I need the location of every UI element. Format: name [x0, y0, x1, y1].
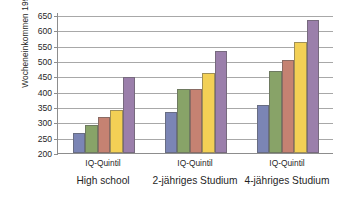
bar	[123, 77, 136, 153]
y-tick-label: 350	[38, 104, 52, 113]
y-tick-mark	[54, 154, 58, 155]
bar-group	[73, 13, 136, 153]
x-group-sublabel: IQ-Quintil	[145, 158, 245, 168]
plot-area: 200250300350400450500550600650	[57, 13, 333, 154]
y-tick-label: 450	[38, 73, 52, 82]
bar-group	[165, 13, 228, 153]
bar-group	[257, 13, 320, 153]
y-axis-title: Wocheneinkommen 1992 in Dollar	[20, 0, 30, 96]
bar	[215, 51, 228, 153]
bar	[190, 89, 203, 153]
bar	[98, 117, 111, 153]
y-tick-label: 250	[38, 134, 52, 143]
bar	[269, 71, 282, 153]
y-tick-label: 200	[38, 150, 52, 159]
bar	[165, 112, 178, 153]
bar	[85, 125, 98, 154]
bar	[282, 60, 295, 153]
bar-series-container	[58, 13, 333, 153]
y-tick-label: 650	[38, 12, 52, 21]
y-tick-label: 300	[38, 119, 52, 128]
y-tick-label: 400	[38, 88, 52, 97]
bar	[110, 110, 123, 153]
y-tick-label: 500	[38, 58, 52, 67]
chart-figure: Wocheneinkommen 1992 in Dollar 200250300…	[0, 0, 340, 198]
x-group-sublabel: IQ-Quintil	[237, 158, 337, 168]
y-tick-label: 550	[38, 42, 52, 51]
y-tick-label: 600	[38, 27, 52, 36]
bar	[257, 105, 270, 153]
x-category-label: 4-jähriges Studium	[227, 175, 340, 186]
bar	[294, 42, 307, 153]
bar	[177, 89, 190, 153]
x-group-sublabel: IQ-Quintil	[53, 158, 153, 168]
bar	[202, 73, 215, 153]
bar	[73, 133, 86, 153]
bar	[307, 20, 320, 153]
